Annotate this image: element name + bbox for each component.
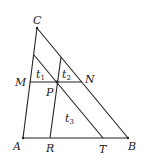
point-b xyxy=(127,137,129,139)
label-c: C xyxy=(33,14,42,27)
label-p: P xyxy=(45,86,54,99)
label-b: B xyxy=(127,140,136,153)
point-p xyxy=(56,81,59,84)
label-r: R xyxy=(45,142,54,155)
label-t3: t3 xyxy=(65,112,74,126)
side-cb xyxy=(37,28,128,138)
label-n: N xyxy=(84,73,95,86)
label-t: T xyxy=(99,143,108,156)
point-a xyxy=(22,137,24,139)
label-a: A xyxy=(12,140,21,153)
label-t1: t1 xyxy=(36,68,45,82)
label-m: M xyxy=(14,76,27,89)
geometry-diagram: C M N P A R T B t1 t2 t3 xyxy=(0,0,149,163)
label-t2: t2 xyxy=(62,68,71,82)
point-c xyxy=(36,27,38,29)
